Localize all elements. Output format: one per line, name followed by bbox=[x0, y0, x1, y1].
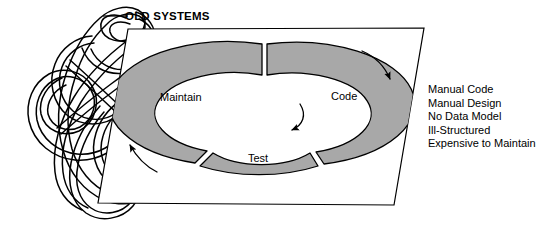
segment-label-maintain: Maintain bbox=[160, 91, 202, 103]
page-title: OLD SYSTEMS bbox=[125, 10, 210, 22]
segment-label-test: Test bbox=[248, 152, 268, 164]
diagram-canvas: OLD SYSTEMS Maintain Code Test Manual Co… bbox=[0, 0, 546, 241]
attributes-list: Manual Code Manual Design No Data Model … bbox=[428, 83, 536, 151]
segment-label-code: Code bbox=[331, 90, 357, 102]
